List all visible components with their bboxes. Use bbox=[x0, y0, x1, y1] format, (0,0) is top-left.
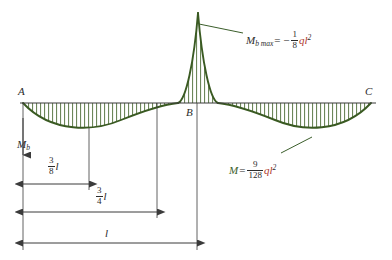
leader-line-max-moment bbox=[199, 24, 243, 33]
max-moment-equals: = − bbox=[273, 34, 290, 46]
dimension-unit: l bbox=[104, 190, 107, 202]
moment-lobe-left-sagging bbox=[23, 103, 178, 128]
bending-moment-diagram: A B C Mb Mb max= − 1 8 ql2 M= 9 128 ql2 … bbox=[0, 0, 392, 260]
dimension-numerator: 3 bbox=[96, 186, 103, 195]
span-moment-fraction: 9 128 bbox=[247, 160, 263, 181]
dimension-denominator: 4 bbox=[96, 197, 103, 206]
span-moment-symbol: M bbox=[229, 164, 238, 176]
max-moment-symbol: M bbox=[246, 34, 255, 46]
max-moment-term: ql bbox=[299, 34, 308, 46]
span-moment-exponent: 2 bbox=[272, 163, 276, 172]
dimension-fraction-3-4: 3 4 bbox=[96, 186, 103, 207]
dimension-fraction-3-8: 3 8 bbox=[48, 156, 55, 177]
dimension-denominator: 8 bbox=[48, 167, 55, 176]
max-moment-exponent: 2 bbox=[308, 33, 312, 42]
max-moment-numerator: 1 bbox=[291, 30, 298, 39]
max-moment-fraction: 1 8 bbox=[291, 30, 298, 51]
dimension-unit: l bbox=[105, 227, 108, 239]
support-moment-subscript: b bbox=[26, 143, 30, 152]
max-moment-denominator: 8 bbox=[291, 41, 298, 50]
span-moment-formula: M= 9 128 ql2 bbox=[229, 160, 276, 181]
dimension-numerator: 3 bbox=[48, 156, 55, 165]
max-moment-formula: Mb max= − 1 8 ql2 bbox=[246, 30, 311, 51]
diagram-canvas bbox=[0, 0, 392, 260]
span-moment-denominator: 128 bbox=[247, 171, 263, 180]
dimension-label-full-span: l bbox=[105, 228, 108, 239]
moment-lobe-right-sagging bbox=[218, 103, 371, 128]
dimension-label-3-8l: 3 8 l bbox=[47, 156, 59, 177]
node-label-c: C bbox=[365, 86, 372, 97]
node-label-a: A bbox=[18, 86, 25, 97]
span-moment-numerator: 9 bbox=[247, 160, 263, 169]
dimension-label-3-4l: 3 4 l bbox=[95, 186, 107, 207]
leader-line-span-moment bbox=[281, 137, 312, 153]
max-moment-subscript: b max bbox=[255, 39, 273, 48]
support-moment-symbol: M bbox=[17, 138, 26, 150]
dimension-lines bbox=[23, 184, 197, 243]
support-moment-label: Mb bbox=[17, 139, 30, 152]
span-moment-equals: = bbox=[238, 164, 246, 176]
dimension-unit: l bbox=[56, 160, 59, 172]
node-label-b: B bbox=[186, 107, 193, 118]
